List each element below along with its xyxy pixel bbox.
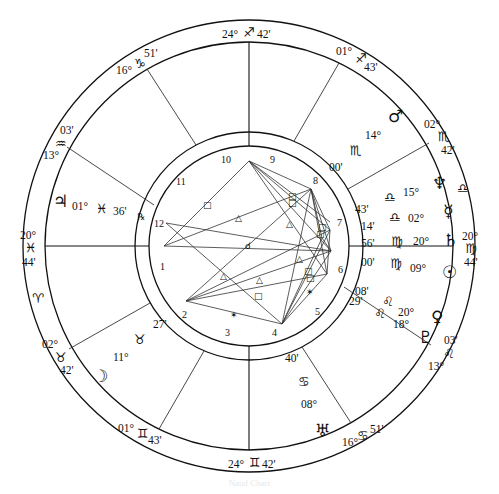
natal-chart-wheel: 1 2 3 4 5 6 7 8 9 10 11 12 <box>0 0 499 494</box>
house-number-9: 9 <box>270 154 275 165</box>
square-aspect-icon: □ <box>203 200 212 210</box>
planet-saturn: ♄ 20° ♍ 56' <box>361 230 458 250</box>
svg-text:42': 42' <box>262 458 276 470</box>
venus-icon: ♀ <box>431 307 443 327</box>
aries-intercepted-icon: ♈ <box>32 291 44 306</box>
mercury-icon: ☿ <box>443 201 453 221</box>
svg-text:42': 42' <box>441 144 455 156</box>
house-number-5: 5 <box>315 306 320 317</box>
svg-text:♏: ♏ <box>438 129 450 144</box>
planet-mars: ♂ 14° ♏ 00' <box>329 106 403 173</box>
svg-text:♎: ♎ <box>384 190 396 205</box>
sextile-aspect-icon: ✶ <box>230 310 238 320</box>
planet-mercury: ☿ 02° ♎ 14' <box>361 201 453 232</box>
svg-text:♓: ♓ <box>96 201 108 216</box>
svg-text:09°: 09° <box>410 262 427 274</box>
svg-text:16°: 16° <box>116 64 133 76</box>
square-aspect-icon: □ <box>288 198 297 208</box>
imum-coeli-label: 24° ♊ 42' <box>228 455 276 470</box>
svg-text:01°: 01° <box>72 200 89 212</box>
aspect-markers: □ △ □ □ △ □ □ △ △ △ □ □ □ ✶ ✶ ☌ <box>203 191 327 320</box>
trine-aspect-icon: △ <box>256 275 263 285</box>
svg-text:♍: ♍ <box>391 234 403 249</box>
libra-intercepted-icon: ♎ <box>457 181 469 196</box>
planet-moon: ☽ 11° ♉ 27' <box>93 318 167 386</box>
cusp-label-11: 16° ♑ 51' <box>116 47 158 76</box>
square-aspect-icon: □ <box>318 222 327 232</box>
cusp-label-2: 02° ♉ 42' <box>42 338 74 376</box>
svg-text:36': 36' <box>113 205 127 217</box>
svg-text:13°: 13° <box>43 149 60 161</box>
trine-aspect-icon: △ <box>296 254 303 264</box>
svg-text:29': 29' <box>349 295 363 307</box>
planet-uranus: ♅ 08° ♋ 40' <box>285 352 330 440</box>
moon-icon: ☽ <box>93 366 108 386</box>
svg-text:03': 03' <box>60 124 74 136</box>
svg-text:15°: 15° <box>403 186 420 198</box>
svg-text:14': 14' <box>361 220 375 232</box>
svg-text:11°: 11° <box>113 351 129 363</box>
sun-icon: ☉ <box>442 262 457 282</box>
svg-text:♌: ♌ <box>443 346 455 361</box>
svg-text:43': 43' <box>148 434 162 446</box>
svg-text:♊: ♊ <box>137 426 149 441</box>
svg-text:44': 44' <box>464 256 478 268</box>
svg-text:00': 00' <box>361 256 375 268</box>
house-number-11: 11 <box>176 176 186 187</box>
house-number-8: 8 <box>313 175 318 186</box>
svg-text:42': 42' <box>60 364 74 376</box>
svg-text:43': 43' <box>364 61 378 73</box>
svg-text:01°: 01° <box>118 422 135 434</box>
svg-text:♊: ♊ <box>249 455 261 470</box>
svg-text:43': 43' <box>355 203 369 215</box>
svg-text:51': 51' <box>370 423 384 435</box>
house-number-7: 7 <box>337 217 342 228</box>
midheaven-label: 24° ♐ 42' <box>222 25 271 40</box>
svg-text:♎: ♎ <box>389 210 401 225</box>
house-number-4: 4 <box>272 327 277 338</box>
retrograde-icon: ℞ <box>137 212 145 222</box>
svg-text:♉: ♉ <box>55 350 67 365</box>
sextile-aspect-icon: ✶ <box>306 287 314 297</box>
planet-jupiter: ♃ 01° ♓ 36' ℞ <box>53 191 145 222</box>
svg-text:42': 42' <box>257 28 271 40</box>
svg-text:♉: ♉ <box>134 332 146 347</box>
cusp-label-5: 16° ♋ 51' <box>342 423 384 448</box>
neptune-icon: ♆ <box>432 173 447 193</box>
conjunction-aspect-icon: ☌ <box>245 241 251 251</box>
square-aspect-icon: □ <box>254 291 263 301</box>
svg-text:44': 44' <box>22 256 36 268</box>
svg-text:27': 27' <box>153 318 167 330</box>
svg-text:♍: ♍ <box>390 256 402 271</box>
svg-text:00': 00' <box>329 161 343 173</box>
house-number-3: 3 <box>225 327 230 338</box>
svg-text:56': 56' <box>361 237 375 249</box>
uranus-icon: ♅ <box>315 420 330 440</box>
cusp-label-9: 01° ♐ 43' <box>336 45 378 73</box>
svg-text:14°: 14° <box>365 129 382 141</box>
mars-icon: ♂ <box>388 106 403 126</box>
svg-text:20°: 20° <box>398 306 415 318</box>
house-number-6: 6 <box>338 264 343 275</box>
pluto-icon: ♇ <box>418 327 433 347</box>
jupiter-icon: ♃ <box>53 191 68 211</box>
saturn-icon: ♄ <box>443 230 458 250</box>
svg-text:03': 03' <box>444 334 458 346</box>
house-number-1: 1 <box>160 261 165 272</box>
svg-text:♌: ♌ <box>374 306 386 321</box>
svg-text:♓: ♓ <box>25 240 37 255</box>
svg-text:40': 40' <box>285 352 299 364</box>
svg-text:01°: 01° <box>336 45 353 57</box>
svg-text:02°: 02° <box>42 338 59 350</box>
svg-text:08°: 08° <box>301 398 318 410</box>
svg-text:24°: 24° <box>228 458 245 470</box>
trine-aspect-icon: △ <box>220 271 227 281</box>
svg-text:♐: ♐ <box>243 25 255 40</box>
svg-text:02°: 02° <box>408 212 425 224</box>
planet-sun: ☉ 09° ♍ 00' <box>361 256 457 282</box>
descendant-label: 20° ♍ 44' <box>462 230 479 268</box>
svg-text:♋: ♋ <box>357 428 369 443</box>
svg-text:♏: ♏ <box>350 143 362 158</box>
svg-text:51': 51' <box>144 47 158 59</box>
square-aspect-icon: □ <box>306 273 315 283</box>
